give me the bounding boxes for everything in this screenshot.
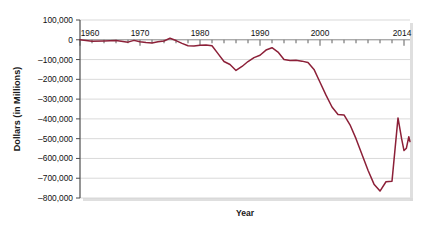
x-tick-label: 1970 — [131, 28, 150, 38]
plot-shadow-right — [410, 23, 413, 201]
y-tick-label: –200,000 — [38, 74, 73, 84]
x-tick-label: 1990 — [251, 28, 270, 38]
plot-shadow-bottom — [83, 198, 413, 201]
y-tick-label: –300,000 — [38, 94, 73, 104]
y-tick-label: –400,000 — [38, 114, 73, 124]
y-tick-label: –500,000 — [38, 134, 73, 144]
x-tick-label: 1980 — [191, 28, 210, 38]
deficit-line-chart: 100,0000–100,000–200,000–300,000–400,000… — [0, 0, 431, 232]
y-tick-label: –700,000 — [38, 173, 73, 183]
y-tick-label: 100,000 — [43, 15, 74, 25]
x-tick-label: 2014 — [393, 28, 412, 38]
plot-area-background — [80, 20, 410, 198]
x-axis-title: Year — [236, 208, 255, 218]
y-axis-title: Dollars (in Millions) — [12, 67, 22, 152]
x-tick-label: 1960 — [81, 28, 100, 38]
y-tick-label: –600,000 — [38, 153, 73, 163]
y-tick-labels: 100,0000–100,000–200,000–300,000–400,000… — [38, 15, 73, 203]
y-tick-label: –800,000 — [38, 193, 73, 203]
x-tick-label: 2000 — [311, 28, 330, 38]
chart-figure: 100,0000–100,000–200,000–300,000–400,000… — [0, 0, 431, 232]
y-tick-label: –100,000 — [38, 55, 73, 65]
y-tick-label: 0 — [68, 35, 73, 45]
